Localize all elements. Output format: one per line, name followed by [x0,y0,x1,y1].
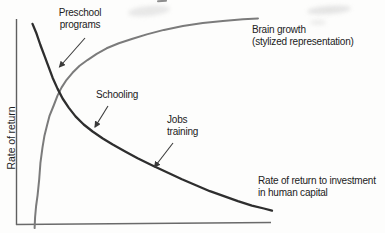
annotation-jobs-training: Jobs training [167,114,198,138]
annotation-schooling: Schooling [96,89,138,101]
curve-label-brain-growth: Brain growth (stylized representation) [252,24,354,48]
return-on-investment-curve [33,24,273,211]
preschool-arrow [60,38,86,67]
x-axis-line [16,223,271,225]
curve-label-rate-of-return: Rate of return to investment in human ca… [258,175,376,199]
annotation-preschool-programs: Preschool programs [45,7,115,31]
schooling-arrow [95,106,108,127]
heckman-curve-figure: Rate of return Preschool programs School… [0,0,385,233]
y-axis-label: Rate of return [5,96,17,180]
jobs-training-arrow [155,143,174,167]
